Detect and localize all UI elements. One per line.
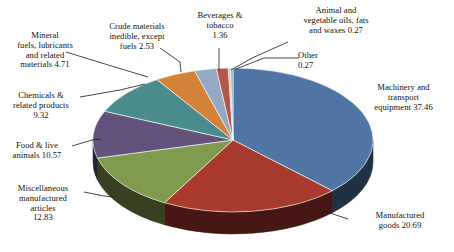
slice-label-manufactured-goods: Manufactured goods 20.69 — [350, 211, 450, 231]
slice-label-chemicals: Chemicals & related products 9.32 — [2, 91, 80, 120]
slice-label-animal-vegetable-oils: Animal and vegetable oils, fats and waxe… — [285, 6, 387, 35]
leader-line-crude-materials — [160, 48, 181, 72]
slice-label-machinery-transport: Machinery and transport equipment 37.46 — [355, 83, 452, 112]
leader-line-animal-oils — [231, 42, 288, 70]
pie-slices-group: Machinery and transport equipment 37.46M… — [93, 68, 373, 234]
leader-line-other — [236, 58, 299, 69]
slice-label-crude-materials: Crude materials inedible, except fuels 2… — [96, 22, 178, 51]
pie-chart-figure: Machinery and transport equipment 37.46M… — [0, 0, 454, 252]
slice-label-beverages-tobacco: Beverages & tobacco 1.36 — [186, 11, 254, 40]
slice-label-misc-manufactured: Miscellaneous manufactured articles 12.8… — [4, 184, 82, 223]
slice-label-other: Other 0.27 — [298, 51, 342, 71]
slice-label-food-live-animals: Food & live animals 10.57 — [2, 141, 72, 161]
slice-label-mineral-fuels: Mineral fuels, lubricants and related ma… — [2, 31, 88, 70]
